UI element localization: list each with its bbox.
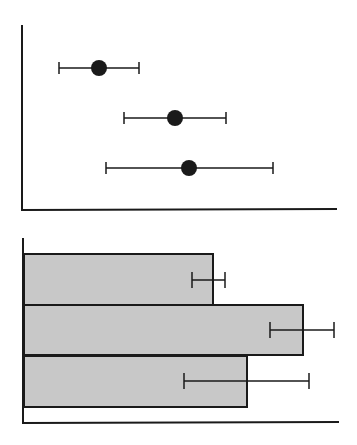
- dot-plot-panel: [22, 25, 337, 211]
- bar: [24, 254, 213, 305]
- bar: [24, 305, 303, 355]
- bar-chart-panel: [23, 238, 339, 424]
- bar-rect: [24, 254, 213, 305]
- x-axis: [22, 209, 337, 210]
- data-point: [106, 160, 273, 176]
- point-marker: [91, 60, 107, 76]
- bar-rect: [24, 305, 303, 355]
- data-point: [124, 110, 226, 126]
- x-axis: [23, 422, 339, 423]
- data-point: [59, 60, 139, 76]
- point-marker: [167, 110, 183, 126]
- point-marker: [181, 160, 197, 176]
- chart-canvas: [0, 0, 357, 445]
